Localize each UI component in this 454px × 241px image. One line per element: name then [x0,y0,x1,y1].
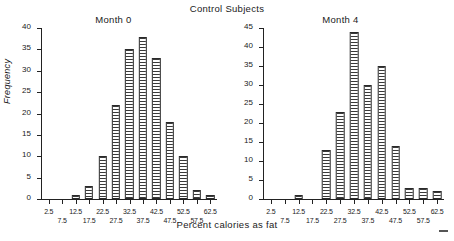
bar-slot [150,28,163,199]
y-tick-1-30: 30 [259,85,264,86]
y-tick-1-0: 0 [259,199,264,200]
bar-slot [96,28,109,199]
x-tick [368,200,369,204]
y-tick-label-0-30: 30 [9,65,31,75]
y-tick-label-0-40: 40 [9,22,31,32]
x-tick [382,200,383,204]
x-tick [326,200,327,204]
y-tick-0-30: 30 [37,71,42,72]
x-tick-label: 2.5 [266,208,275,216]
x-tick-label: 52.5 [177,208,190,216]
x-tick [183,200,184,204]
x-tick [103,200,104,204]
bar-slot [123,28,136,199]
histogram-bar [98,156,106,199]
x-tick-label: 32.5 [348,208,361,216]
x-tick-label: 22.5 [320,208,333,216]
x-tick [396,200,397,204]
histogram-bar [322,150,331,199]
x-tick-label: 42.5 [150,208,163,216]
x-tick [170,200,171,204]
x-tick [49,200,50,204]
y-tick-label-1-0: 0 [231,193,253,203]
bar-slot [82,28,95,199]
x-tick [409,200,410,204]
x-tick [156,200,157,204]
bar-slot [416,28,430,199]
y-tick-label-1-40: 40 [231,41,253,51]
bar-slot [306,28,320,199]
y-tick-label-1-15: 15 [231,136,253,146]
x-tick-label: 42.5 [375,208,388,216]
plot-area-month0: 05101520253035402.57.512.517.522.527.532… [41,28,217,200]
bar-slot [264,28,278,199]
scan-artifact-mark [439,230,448,232]
y-tick-1-20: 20 [259,123,264,124]
y-tick-0-15: 15 [37,135,42,136]
y-tick-1-40: 40 [259,47,264,48]
y-tick-0-35: 35 [37,49,42,50]
bar-slot [402,28,416,199]
histogram-bar [179,156,187,199]
histogram-bar [112,105,120,199]
histogram-bar [350,32,359,199]
histogram-bar [166,122,174,199]
bar-slot [177,28,190,199]
histogram-bar [336,112,345,199]
y-tick-0-5: 5 [37,178,42,179]
x-tick-label: 62.5 [431,208,444,216]
bar-slot [347,28,361,199]
y-tick-1-5: 5 [259,180,264,181]
x-tick [62,200,63,204]
y-tick-label-0-10: 10 [9,150,31,160]
histogram-bar [405,188,414,199]
bar-slot [55,28,68,199]
bar-slot [42,28,55,199]
x-tick [116,200,117,204]
chart-panel-month0: Month 0 Frequency 05101520253035402.57.5… [0,0,227,241]
x-tick-label: 12.5 [69,208,82,216]
histogram-bar [125,49,133,199]
x-tick [89,200,90,204]
y-tick-label-1-5: 5 [231,174,253,184]
histogram-bar [364,85,373,199]
y-tick-label-1-45: 45 [231,22,253,32]
histogram-bar [85,186,93,199]
x-tick [271,200,272,204]
x-tick [143,200,144,204]
chart-title-month4: Month 4 [227,14,454,25]
x-tick [437,200,438,204]
y-tick-label-1-30: 30 [231,79,253,89]
histogram-bar [206,195,214,199]
x-tick [423,200,424,204]
histogram-bar [294,195,303,199]
bar-group-month0 [42,28,217,199]
x-tick [285,200,286,204]
x-tick [210,200,211,204]
histogram-bar [139,37,147,199]
bar-slot [375,28,389,199]
x-tick [130,200,131,204]
y-tick-label-1-25: 25 [231,98,253,108]
y-tick-1-10: 10 [259,161,264,162]
bar-slot [292,28,306,199]
x-tick-label: 52.5 [403,208,416,216]
y-tick-1-15: 15 [259,142,264,143]
y-tick-label-1-35: 35 [231,60,253,70]
x-tick [76,200,77,204]
y-tick-label-0-25: 25 [9,86,31,96]
x-tick-label: 62.5 [204,208,217,216]
histogram-bar [391,146,400,199]
bar-slot [278,28,292,199]
bar-slot [361,28,375,199]
bar-slot [109,28,122,199]
x-tick-label: 22.5 [96,208,109,216]
bar-slot [190,28,203,199]
bar-slot [430,28,444,199]
chart-title-month0: Month 0 [0,14,227,25]
y-tick-0-10: 10 [37,156,42,157]
histogram-bar [419,188,428,199]
histogram-figure: Control Subjects Month 0 Frequency 05101… [0,0,454,241]
y-tick-1-25: 25 [259,104,264,105]
bar-group-month4 [264,28,444,199]
